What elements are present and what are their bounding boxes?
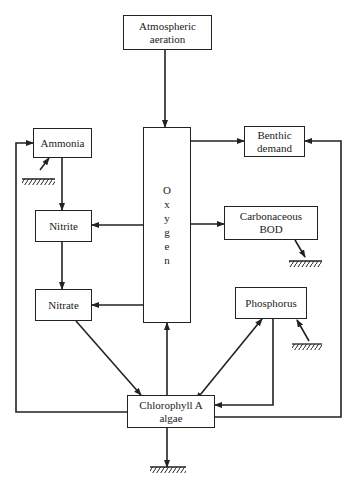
benthic-label-line1: Benthic [257, 129, 292, 142]
node-ammonia: Ammonia [33, 128, 92, 158]
chlorophyll-label-line2: algae [139, 412, 202, 425]
phosphorus-label: Phosphorus [245, 297, 296, 310]
oxygen-letter: y [164, 211, 170, 225]
oxygen-letter: e [165, 239, 170, 253]
aeration-label-line2: aeration [139, 33, 196, 46]
benthic-label-line2: demand [257, 142, 292, 155]
oxygen-letter: g [164, 225, 170, 239]
ammonia-label: Ammonia [41, 137, 85, 150]
arrow-phosphorus-chlorophyll-bidir [200, 319, 262, 395]
cbod-label-line2: BOD [240, 223, 302, 236]
chlorophyll-label-line1: Chlorophyll A [139, 399, 202, 412]
node-oxygen: O x y g e n [143, 127, 191, 323]
oxygen-letter: x [164, 197, 170, 211]
arrow-cbod-settling [295, 240, 305, 257]
oxygen-letter: O [163, 183, 171, 197]
node-atmospheric-aeration: Atmosphericaeration [123, 15, 212, 50]
arrow-sediment-ammonia [40, 158, 49, 170]
aeration-label-line1: Atmospheric [139, 20, 196, 33]
oxygen-letter: n [164, 253, 170, 267]
arrow-nitrate-chlorophyll [76, 321, 141, 395]
arrow-phosphorus-chlorophyll [215, 319, 273, 405]
arrow-chlorophyll-benthic [215, 141, 341, 417]
node-nitrite: Nitrite [35, 210, 92, 242]
nitrate-label: Nitrate [48, 299, 79, 312]
node-phosphorus: Phosphorus [235, 287, 307, 319]
node-nitrate: Nitrate [35, 289, 92, 321]
node-chlorophyll-a-algae: Chlorophyll Aalgae [127, 395, 215, 428]
nitrite-label: Nitrite [49, 220, 78, 233]
node-carbonaceous-bod: CarbonaceousBOD [224, 206, 318, 240]
node-benthic-demand: Benthicdemand [244, 126, 305, 157]
cbod-label-line1: Carbonaceous [240, 210, 302, 223]
arrow-sediment-phosphorus [297, 320, 309, 341]
